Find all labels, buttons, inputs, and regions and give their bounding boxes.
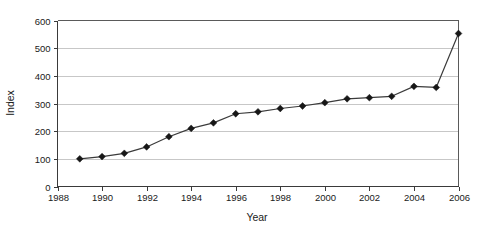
x-tick-label-2000: 2000 xyxy=(315,192,336,203)
y-tick-label-500: 500 xyxy=(35,43,51,54)
y-tick-label-200: 200 xyxy=(35,126,51,137)
x-tick-label-1990: 1990 xyxy=(92,192,113,203)
x-tick-label-2006: 2006 xyxy=(449,192,470,203)
index-vs-year-line-chart: 0100200300400500600 19881990199219941996… xyxy=(0,0,478,228)
y-tick-label-600: 600 xyxy=(35,16,51,27)
x-tick-label-2002: 2002 xyxy=(359,192,380,203)
y-tick-label-400: 400 xyxy=(35,71,51,82)
x-tick-label-1996: 1996 xyxy=(226,192,247,203)
y-tick-label-100: 100 xyxy=(35,154,51,165)
x-tick-label-1998: 1998 xyxy=(270,192,291,203)
y-axis-label: Index xyxy=(4,89,16,115)
y-tick-label-300: 300 xyxy=(35,99,51,110)
x-axis-label: Year xyxy=(246,211,268,223)
x-tick-label-2004: 2004 xyxy=(404,192,425,203)
x-tick-label-1988: 1988 xyxy=(48,192,69,203)
x-tick-label-1994: 1994 xyxy=(181,192,202,203)
chart-container: 0100200300400500600 19881990199219941996… xyxy=(0,0,478,228)
x-tick-label-1992: 1992 xyxy=(137,192,158,203)
